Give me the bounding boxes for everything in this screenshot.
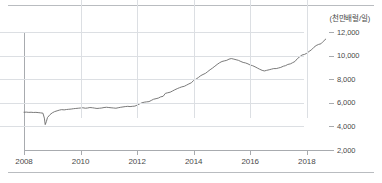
gridline-horizontal (0, 126, 304, 127)
y-axis-tick-label: 6,000 (337, 98, 355, 107)
gridline-vertical (307, 0, 308, 118)
x-axis-tick-label: 2012 (120, 157, 154, 166)
bottom-divider (8, 172, 374, 173)
y-axis-tick-label: 8,000 (337, 75, 355, 84)
gridline-horizontal (0, 79, 304, 80)
gridline-vertical (137, 0, 138, 118)
y-axis-tick-label: 2,000 (337, 146, 355, 155)
x-axis-tick-label: 2018 (290, 157, 324, 166)
x-axis-tick (24, 151, 25, 155)
y-axis-unit-label: (천만배럴/일) (330, 12, 370, 23)
x-axis-tick-label: 2010 (64, 157, 98, 166)
gridline-horizontal (0, 103, 304, 104)
x-axis-tick-label: 2008 (7, 157, 41, 166)
x-axis-tick-label: 2014 (177, 157, 211, 166)
series-path-crude-oil-production (24, 39, 326, 125)
y-axis-tick (329, 150, 334, 151)
x-axis-tick (194, 151, 195, 155)
gridline-vertical (81, 0, 82, 118)
x-axis-tick (81, 151, 82, 155)
chart-figure: (천만배럴/일) 12,00010,0008,0006,0004,0002,00… (0, 0, 382, 183)
top-divider (8, 5, 374, 6)
gridline-horizontal (0, 56, 304, 57)
y-axis-tick-label: 10,000 (337, 51, 359, 60)
y-axis-tick-label: 12,000 (337, 28, 359, 37)
x-axis-tick-label: 2016 (233, 157, 267, 166)
y-axis-tick (329, 56, 334, 57)
y-axis-tick (329, 103, 334, 104)
x-axis-line (24, 150, 329, 151)
x-axis-tick (307, 151, 308, 155)
y-axis-tick (329, 79, 334, 80)
gridline-vertical (250, 0, 251, 118)
y-axis-tick-label: 4,000 (337, 122, 355, 131)
gridline-vertical (194, 0, 195, 118)
x-axis-tick (137, 151, 138, 155)
series-line-chart (24, 32, 328, 150)
y-axis-tick (329, 126, 334, 127)
y-axis-tick (329, 32, 334, 33)
gridline-horizontal (0, 32, 304, 33)
x-axis-tick (250, 151, 251, 155)
